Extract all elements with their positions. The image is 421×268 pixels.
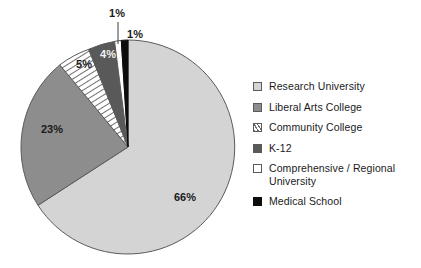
legend-item-k12[interactable]: K-12 bbox=[253, 142, 421, 155]
legend-label-community-college: Community College bbox=[269, 121, 362, 134]
hatched-swatch-icon bbox=[253, 123, 262, 132]
pie-chart-area: 66% 23% 5% 4% 1% 1% bbox=[0, 0, 245, 268]
pie-chart-svg: 66% 23% 5% 4% 1% 1% bbox=[0, 0, 245, 268]
legend-item-medical-school[interactable]: Medical School bbox=[253, 195, 421, 208]
pie-label-research-university: 66% bbox=[174, 191, 196, 203]
legend-item-comprehensive-regional-university[interactable]: Comprehensive / Regional University bbox=[253, 162, 421, 187]
legend-label-medical-school: Medical School bbox=[269, 195, 342, 208]
legend-label-liberal-arts-college: Liberal Arts College bbox=[269, 101, 362, 114]
pie-label-medical-school: 1% bbox=[127, 28, 143, 40]
medium-gray-swatch-icon bbox=[253, 103, 262, 112]
legend-item-liberal-arts-college[interactable]: Liberal Arts College bbox=[253, 101, 421, 114]
black-swatch-icon bbox=[253, 197, 262, 206]
pie-label-liberal-arts-college: 23% bbox=[41, 123, 63, 135]
legend-label-comprehensive-regional-university: Comprehensive / Regional University bbox=[269, 162, 421, 187]
pie-label-comprehensive-regional-university: 1% bbox=[109, 7, 125, 19]
legend-label-research-university: Research University bbox=[269, 80, 365, 93]
pie-label-k12: 4% bbox=[100, 48, 116, 60]
legend-item-research-university[interactable]: Research University bbox=[253, 80, 421, 93]
pie-label-community-college: 5% bbox=[76, 58, 92, 70]
dark-gray-swatch-icon bbox=[253, 144, 262, 153]
legend-label-k12: K-12 bbox=[269, 142, 292, 155]
pie-chart-screenshot: 66% 23% 5% 4% 1% 1% Research University … bbox=[0, 0, 421, 268]
chart-legend: Research University Liberal Arts College… bbox=[253, 80, 421, 208]
legend-item-community-college[interactable]: Community College bbox=[253, 121, 421, 134]
light-gray-swatch-icon bbox=[253, 82, 262, 91]
white-swatch-icon bbox=[253, 164, 262, 173]
